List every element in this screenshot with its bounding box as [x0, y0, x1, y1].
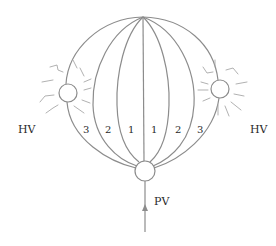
hepatic-vein-right-node: [211, 80, 229, 98]
zone-label-right-1: 1: [151, 124, 157, 135]
zone-arc-left-3: [93, 17, 143, 166]
zone-label-left-2: 2: [105, 124, 111, 135]
portal-vein-label: PV: [154, 195, 170, 208]
flow-arrow-icon: [142, 204, 148, 211]
lobule-diagram: 3 2 1 1 2 3 HV HV PV: [0, 0, 276, 246]
central-axis: [143, 17, 144, 161]
zone-label-right-2: 2: [175, 124, 181, 135]
radiating-lines-right-icon: [198, 60, 247, 116]
zone-label-left-1: 1: [128, 124, 134, 135]
outer-boundary-right: [143, 17, 219, 168]
zone-arc-left-2: [117, 17, 143, 162]
hepatic-vein-left-label: HV: [18, 123, 37, 136]
hepatic-vein-left-node: [59, 84, 77, 102]
zone-arc-right-2: [143, 17, 169, 162]
hepatic-vein-right-label: HV: [250, 123, 269, 136]
zone-label-right-3: 3: [197, 124, 203, 135]
radiating-lines-left-icon: [40, 60, 91, 113]
zone-label-left-3: 3: [83, 124, 89, 135]
portal-vein-node: [135, 161, 155, 181]
